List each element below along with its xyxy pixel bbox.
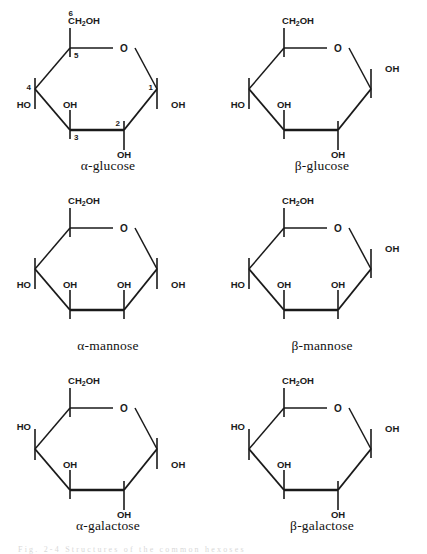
molecule-name-alpha-galactose: α-galactose: [18, 518, 198, 534]
bond-c1-c2: [338, 89, 371, 130]
label-c5-ch2oh: CH2OH: [282, 195, 314, 207]
label-c1-oh: OH: [171, 459, 185, 470]
label-c3-oh: OH: [277, 459, 291, 470]
label-c4-ho: HO: [17, 421, 31, 432]
ring-oxygen-label: O: [334, 403, 342, 414]
label-c4-ho: HO: [231, 279, 245, 290]
ring-oxygen-label: O: [334, 223, 342, 234]
molecule-cell-beta-galactose: OCH2OHOHOHOHHOβ-galactose: [232, 366, 412, 544]
carbon-number-2: 2: [116, 119, 121, 128]
label-c4-ho: HO: [17, 279, 31, 290]
label-c3-oh: OH: [63, 279, 77, 290]
structure-beta-galactose: OCH2OHOHOHOHHO: [232, 366, 412, 531]
label-c2-oh: OH: [117, 279, 131, 290]
bond-c4-c5: [249, 408, 284, 449]
bond-o-c1: [135, 408, 157, 449]
carbon-number-1: 1: [149, 83, 154, 92]
structure-beta-mannose: OCH2OHOHOHOHHO: [232, 186, 412, 351]
label-c1-oh: OH: [385, 423, 399, 434]
figure-caption-fragment: Fig. 2-4 Structures of the common hexose…: [18, 545, 246, 554]
carbon-number-4: 4: [27, 83, 32, 92]
ring-oxygen-label: O: [120, 223, 128, 234]
structure-alpha-galactose: OCH2OHOHOHOHHO: [18, 366, 198, 531]
structure-alpha-glucose: OCH2OHOHOHOHHO123456: [18, 6, 198, 171]
bond-c1-c2: [124, 449, 157, 490]
molecule-name-alpha-glucose: α-glucose: [18, 158, 198, 174]
bond-c4-c5: [249, 48, 284, 89]
label-c3-oh: OH: [63, 99, 77, 110]
label-c4-ho: HO: [231, 421, 245, 432]
molecule-name-alpha-mannose: α-mannose: [18, 338, 198, 354]
structure-alpha-mannose: OCH2OHOHOHOHHO: [18, 186, 198, 351]
label-c5-ch2oh: CH2OH: [282, 15, 314, 27]
bond-o-c1: [135, 48, 157, 89]
label-c5-ch2oh: CH2OH: [68, 195, 100, 207]
molecule-cell-alpha-glucose: OCH2OHOHOHOHHO123456α-glucose: [18, 6, 198, 184]
label-c1-oh: OH: [385, 243, 399, 254]
label-c2-oh: OH: [331, 279, 345, 290]
bond-c1-c2: [338, 449, 371, 490]
bond-o-c1: [349, 408, 371, 449]
molecule-cell-beta-mannose: OCH2OHOHOHOHHOβ-mannose: [232, 186, 412, 364]
molecule-cell-beta-glucose: OCH2OHOHOHOHHOβ-glucose: [232, 6, 412, 184]
molecule-name-beta-mannose: β-mannose: [232, 338, 412, 354]
label-c5-ch2oh: CH2OH: [68, 375, 100, 387]
bond-c4-c5: [35, 48, 70, 89]
bond-c1-c2: [124, 89, 157, 130]
bond-o-c1: [349, 228, 371, 269]
molecule-name-beta-galactose: β-galactose: [232, 518, 412, 534]
ring-oxygen-label: O: [334, 43, 342, 54]
ring-oxygen-label: O: [120, 43, 128, 54]
molecule-cell-alpha-galactose: OCH2OHOHOHOHHOα-galactose: [18, 366, 198, 544]
hexose-structures-figure: OCH2OHOHOHOHHO123456α-glucoseOCH2OHOHOHO…: [0, 0, 427, 554]
label-c1-oh: OH: [385, 63, 399, 74]
label-c3-oh: OH: [63, 459, 77, 470]
label-c3-oh: OH: [277, 279, 291, 290]
bond-c4-c5: [249, 228, 284, 269]
carbon-number-3: 3: [74, 133, 79, 142]
bond-c4-c5: [35, 228, 70, 269]
label-c1-oh: OH: [171, 279, 185, 290]
carbon-number-6: 6: [69, 9, 74, 18]
molecule-name-beta-glucose: β-glucose: [232, 158, 412, 174]
bond-o-c1: [349, 48, 371, 89]
label-c1-oh: OH: [171, 99, 185, 110]
label-c4-ho: HO: [17, 99, 31, 110]
carbon-number-5: 5: [74, 51, 79, 60]
label-c5-ch2oh: CH2OH: [282, 375, 314, 387]
ring-oxygen-label: O: [120, 403, 128, 414]
bond-o-c1: [135, 228, 157, 269]
label-c3-oh: OH: [277, 99, 291, 110]
bond-c4-c5: [35, 408, 70, 449]
structure-beta-glucose: OCH2OHOHOHOHHO: [232, 6, 412, 171]
label-c4-ho: HO: [231, 99, 245, 110]
molecule-cell-alpha-mannose: OCH2OHOHOHOHHOα-mannose: [18, 186, 198, 364]
